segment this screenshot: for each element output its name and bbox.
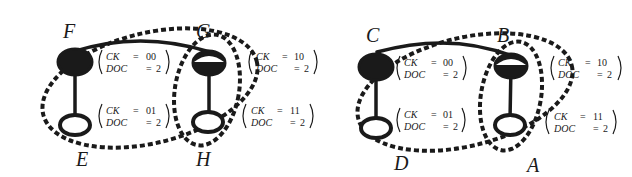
svg-text:DOC: DOC: [403, 69, 425, 80]
svg-text:=: =: [282, 51, 288, 62]
attr-box-g: CK = 10 DOC = 2: [249, 50, 317, 74]
svg-text:DOC: DOC: [557, 69, 579, 80]
attr-box-c: CK = 00 DOC = 2: [397, 56, 466, 80]
svg-text:DOC: DOC: [250, 117, 272, 128]
svg-text:2: 2: [603, 123, 608, 134]
attr-box-a: CK = 11 DOC = 2: [546, 110, 616, 134]
svg-text:=: =: [133, 105, 139, 116]
svg-text:=: =: [290, 117, 296, 128]
node-d: [361, 118, 391, 138]
edge-c-b: [377, 43, 512, 56]
svg-text:2: 2: [453, 121, 458, 132]
svg-text:CK: CK: [251, 105, 266, 116]
svg-text:=: =: [294, 63, 300, 74]
svg-text:10: 10: [294, 51, 304, 62]
dashed-group-ellipse: [345, 13, 585, 171]
svg-text:=: =: [277, 105, 283, 116]
svg-text:11: 11: [593, 111, 603, 122]
node-f: [58, 49, 92, 75]
svg-text:2: 2: [300, 117, 305, 128]
svg-text:CK: CK: [106, 51, 121, 62]
svg-text:01: 01: [146, 105, 156, 116]
attr-box-d: CK = 01 DOC = 2: [397, 108, 465, 132]
svg-text:=: =: [431, 109, 437, 120]
svg-text:=: =: [443, 121, 449, 132]
svg-text:00: 00: [443, 57, 453, 68]
node-g: [193, 51, 225, 75]
svg-text:CK: CK: [404, 57, 419, 68]
svg-text:=: =: [593, 123, 599, 134]
node-label-h: H: [195, 148, 212, 170]
node-label-d: D: [393, 152, 409, 174]
svg-text:=: =: [146, 63, 152, 74]
svg-text:CK: CK: [554, 111, 569, 122]
svg-text:DOC: DOC: [105, 117, 127, 128]
node-label-b: B: [497, 24, 509, 46]
svg-text:=: =: [431, 57, 437, 68]
svg-text:=: =: [146, 117, 152, 128]
svg-text:2: 2: [156, 117, 161, 128]
svg-text:DOC: DOC: [403, 121, 425, 132]
node-label-f: F: [62, 20, 76, 42]
svg-text:=: =: [597, 69, 603, 80]
attr-box-f: CK = 00 DOC = 2: [99, 50, 169, 74]
svg-text:=: =: [585, 57, 591, 68]
attr-box-e: CK = 01 DOC = 2: [99, 104, 169, 128]
svg-text:CK: CK: [558, 57, 573, 68]
svg-text:00: 00: [146, 51, 156, 62]
svg-text:=: =: [443, 69, 449, 80]
svg-text:CK: CK: [106, 105, 121, 116]
svg-text:CK: CK: [404, 109, 419, 120]
svg-text:2: 2: [304, 63, 309, 74]
attr-box-h: CK = 11 DOC = 2: [243, 104, 313, 128]
svg-text:=: =: [580, 111, 586, 122]
svg-text:DOC: DOC: [255, 63, 277, 74]
svg-text:2: 2: [156, 63, 161, 74]
svg-text:2: 2: [453, 69, 458, 80]
node-c: [359, 54, 393, 80]
attr-box-b: CK = 10 DOC = 2: [551, 56, 621, 80]
svg-text:01: 01: [443, 109, 453, 120]
svg-text:11: 11: [290, 105, 300, 116]
node-e: [60, 115, 90, 135]
node-label-e: E: [75, 148, 88, 170]
node-a: [495, 115, 525, 135]
node-b: [495, 54, 527, 78]
svg-text:=: =: [133, 51, 139, 62]
node-label-g: G: [196, 20, 211, 42]
svg-text:2: 2: [607, 69, 612, 80]
svg-text:CK: CK: [256, 51, 271, 62]
svg-text:10: 10: [597, 57, 607, 68]
right-graph: C B D A CK = 00 DOC = 2 CK = 10 DOC = 2 …: [345, 13, 621, 176]
left-graph: F G E H CK = 00 DOC = 2 CK = 10 DOC = 2: [30, 8, 317, 170]
node-label-a: A: [525, 154, 540, 176]
diagram-canvas: F G E H CK = 00 DOC = 2 CK = 10 DOC = 2: [0, 0, 632, 177]
node-label-c: C: [366, 24, 380, 46]
diagram-svg: F G E H CK = 00 DOC = 2 CK = 10 DOC = 2: [0, 0, 632, 177]
node-h: [193, 112, 223, 132]
svg-text:DOC: DOC: [553, 123, 575, 134]
svg-text:DOC: DOC: [105, 63, 127, 74]
